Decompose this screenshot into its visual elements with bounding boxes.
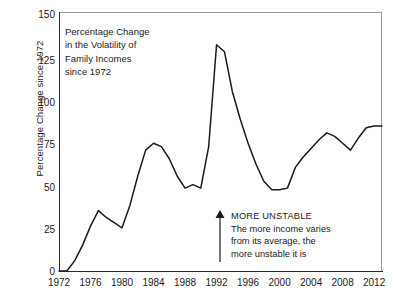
chart-title: Percentage Change in the Volatility of F… xyxy=(65,25,150,79)
chart-title-line: Percentage Change xyxy=(65,25,150,38)
data-series-line xyxy=(0,0,396,299)
volatility-line-chart: Percentage Change since 1972 0 25 50 75 … xyxy=(0,0,396,299)
x-axis-tick-labels: 1972197619801984198819921996200020042008… xyxy=(0,277,396,293)
annotation-line: from its average, the xyxy=(231,235,331,248)
annotation-line: more unstable it is xyxy=(231,248,331,261)
chart-title-line: Family Incomes xyxy=(65,52,150,65)
more-unstable-annotation: MORE UNSTABLE The more income varies fro… xyxy=(231,210,331,260)
chart-title-line: since 1972 xyxy=(65,65,150,78)
x-tick-label: 2012 xyxy=(354,277,394,288)
chart-title-line: in the Volatility of xyxy=(65,38,150,51)
annotation-heading: MORE UNSTABLE xyxy=(231,210,331,223)
annotation-line: The more income varies xyxy=(231,223,331,236)
arrow-up-icon xyxy=(214,210,226,262)
